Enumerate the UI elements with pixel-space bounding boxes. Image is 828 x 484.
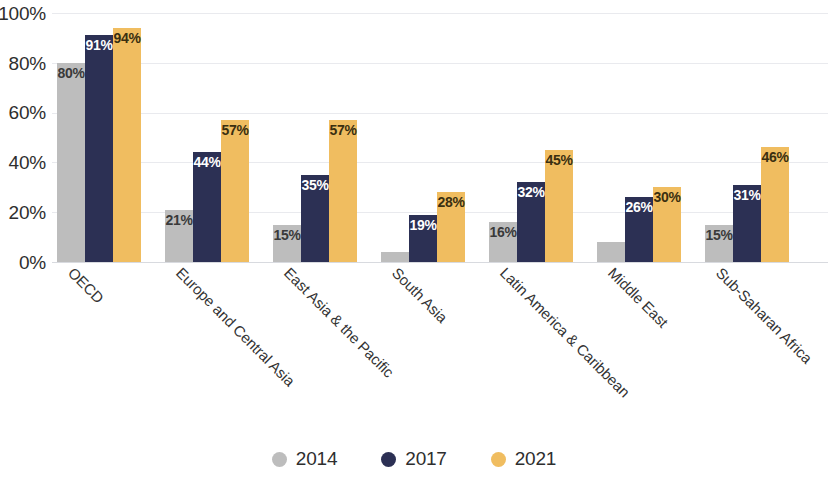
legend: 201420172021 — [0, 448, 828, 470]
x-axis-label-1: Europe and Central Asia — [173, 264, 298, 389]
bar-2017[interactable]: 44% — [193, 152, 221, 262]
bar-2017[interactable]: 19% — [409, 215, 437, 262]
bar-value-label: 57% — [221, 123, 248, 137]
bar-value-label: 21% — [165, 213, 192, 227]
plot-area: 80%91%94%21%44%57%15%35%57%19%28%16%32%4… — [52, 0, 828, 262]
bar-2021[interactable]: 57% — [221, 120, 249, 262]
bar-value-label: 16% — [489, 225, 516, 239]
bar-value-label: 15% — [705, 228, 732, 242]
bar-2021[interactable]: 30% — [653, 187, 681, 262]
bar-2021[interactable]: 46% — [761, 147, 789, 262]
bar-2017[interactable]: 26% — [625, 197, 653, 262]
x-axis-label-6: Sub-Saharan Africa — [713, 264, 816, 367]
y-axis-tick-60: 60% — [9, 103, 46, 122]
y-axis-tick-100: 100% — [0, 4, 46, 23]
bar-2017[interactable]: 31% — [733, 185, 761, 262]
y-axis: 100% 80% 60% 40% 20% 0% — [0, 0, 52, 280]
bar-value-label: 15% — [273, 228, 300, 242]
bar-value-label: 32% — [517, 185, 544, 199]
bar-2014[interactable] — [597, 242, 625, 262]
bar-2014[interactable]: 80% — [57, 63, 85, 262]
bar-value-label: 46% — [761, 150, 788, 164]
x-axis-label-0: OECD — [65, 264, 107, 306]
bar-group: 15%35%57% — [273, 0, 357, 262]
legend-label: 2017 — [405, 448, 446, 470]
legend-label: 2021 — [515, 448, 556, 470]
legend-swatch-icon — [272, 452, 287, 467]
x-axis-label-2: East Asia & the Pacific — [281, 264, 398, 381]
x-axis-label-5: Middle East — [605, 264, 672, 331]
bar-group: 26%30% — [597, 0, 681, 262]
grouped-bar-chart: 100% 80% 60% 40% 20% 0% 80%91%94%21%44%5… — [0, 0, 828, 484]
bar-2014[interactable]: 16% — [489, 222, 517, 262]
legend-label: 2014 — [296, 448, 337, 470]
bar-2021[interactable]: 45% — [545, 150, 573, 262]
bar-value-label: 28% — [437, 195, 464, 209]
bar-2017[interactable]: 32% — [517, 182, 545, 262]
bar-value-label: 19% — [409, 218, 436, 232]
bar-2014[interactable]: 15% — [705, 225, 733, 262]
bar-2014[interactable] — [381, 252, 409, 262]
bar-group: 80%91%94% — [57, 0, 141, 262]
bar-value-label: 91% — [85, 38, 112, 52]
gridline-0 — [52, 262, 828, 263]
x-axis-label-3: South Asia — [389, 264, 451, 326]
bar-value-label: 26% — [625, 200, 652, 214]
bar-value-label: 31% — [733, 188, 760, 202]
bar-group: 16%32%45% — [489, 0, 573, 262]
bar-value-label: 57% — [329, 123, 356, 137]
bar-2017[interactable]: 91% — [85, 35, 113, 262]
bar-2014[interactable]: 21% — [165, 210, 193, 262]
legend-swatch-icon — [491, 452, 506, 467]
bar-value-label: 44% — [193, 155, 220, 169]
bar-value-label: 80% — [57, 66, 84, 80]
legend-item-2017[interactable]: 2017 — [381, 448, 446, 470]
bar-group: 19%28% — [381, 0, 465, 262]
y-axis-tick-40: 40% — [9, 153, 46, 172]
bar-2021[interactable]: 28% — [437, 192, 465, 262]
bar-value-label: 30% — [653, 190, 680, 204]
legend-item-2014[interactable]: 2014 — [272, 448, 337, 470]
bar-2017[interactable]: 35% — [301, 175, 329, 262]
bar-value-label: 94% — [113, 31, 140, 45]
y-axis-tick-80: 80% — [9, 54, 46, 73]
legend-item-2021[interactable]: 2021 — [491, 448, 556, 470]
bar-2014[interactable]: 15% — [273, 225, 301, 262]
legend-swatch-icon — [381, 452, 396, 467]
bar-group: 15%31%46% — [705, 0, 789, 262]
x-axis: OECDEurope and Central AsiaEast Asia & t… — [52, 264, 828, 424]
bar-2021[interactable]: 94% — [113, 28, 141, 262]
bar-2021[interactable]: 57% — [329, 120, 357, 262]
bar-group: 21%44%57% — [165, 0, 249, 262]
y-axis-tick-0: 0% — [19, 253, 46, 272]
bar-value-label: 35% — [301, 178, 328, 192]
bar-value-label: 45% — [545, 153, 572, 167]
y-axis-tick-20: 20% — [9, 203, 46, 222]
